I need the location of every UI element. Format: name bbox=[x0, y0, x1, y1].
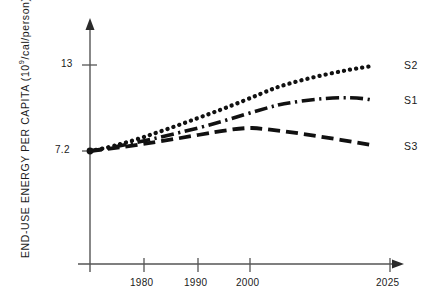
chart-container: END-USE ENERGY PER CAPITA (109/cal/perso… bbox=[0, 0, 427, 301]
series-label-s3: S3 bbox=[404, 140, 418, 152]
y-tick-label-13: 13 bbox=[61, 58, 73, 69]
y-tick-label-7-2: 7.2 bbox=[55, 144, 70, 155]
series-label-s2: S2 bbox=[404, 59, 418, 71]
x-tick-label-1990: 1990 bbox=[184, 277, 207, 288]
x-tick-label-1980: 1980 bbox=[130, 277, 153, 288]
x-axis-arrowhead bbox=[392, 260, 404, 269]
x-tick-label-2000: 2000 bbox=[236, 277, 259, 288]
series-label-s1: S1 bbox=[404, 94, 418, 106]
start-point-marker bbox=[87, 148, 94, 155]
x-tick-label-2025: 2025 bbox=[376, 277, 399, 288]
y-axis-arrowhead bbox=[86, 18, 95, 30]
